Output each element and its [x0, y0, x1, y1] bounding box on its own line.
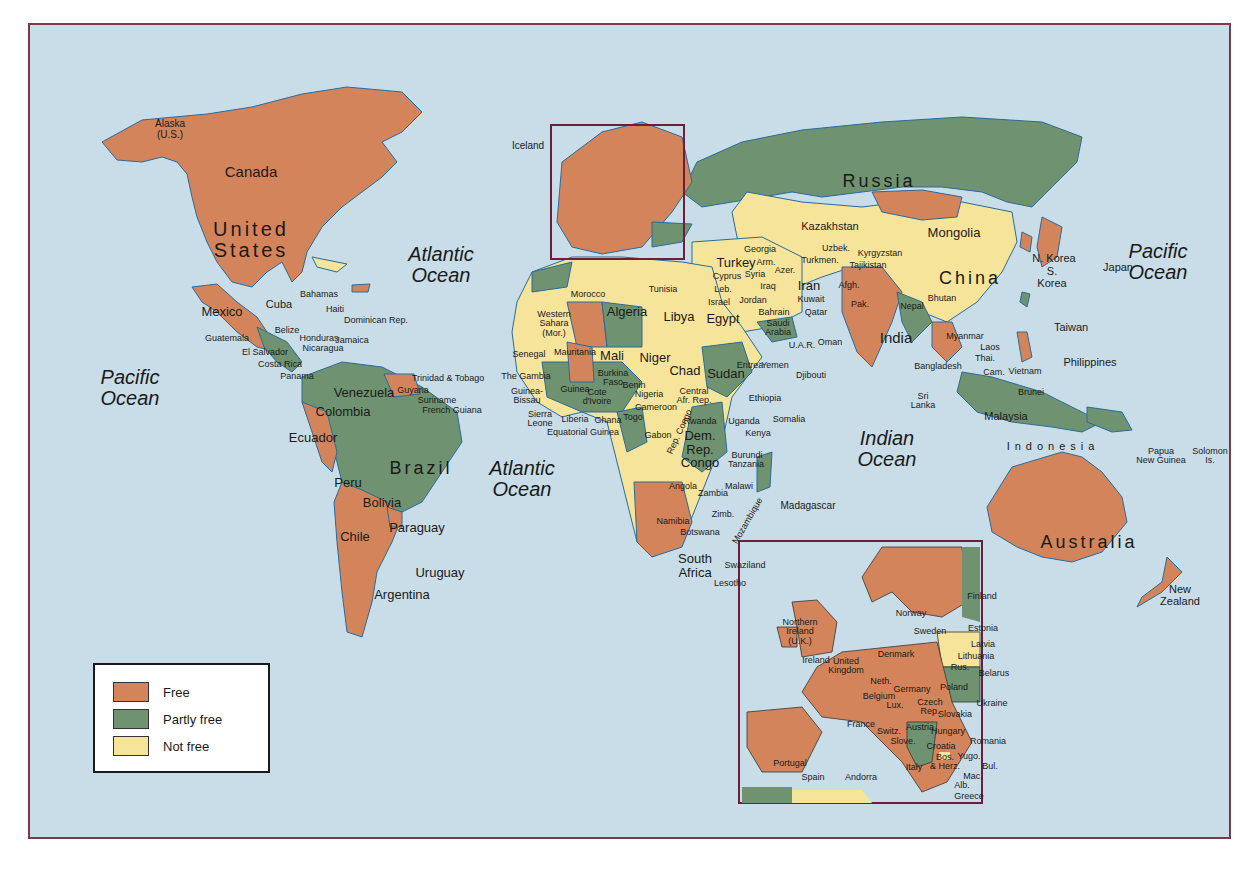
label-eritrea: Eritrea: [737, 361, 764, 370]
legend-label-free: Free: [163, 685, 190, 700]
ocean-label-indian: IndianOcean: [858, 428, 917, 470]
label-swaziland: Swaziland: [724, 561, 765, 570]
label-kenya: Kenya: [745, 429, 771, 438]
label-cote-divoire: Coted'Ivoire: [583, 388, 612, 407]
label-n-korea: N. Korea: [1032, 253, 1075, 265]
label-ethiopia: Ethiopia: [749, 394, 782, 403]
label-papua-new-guinea: PapuaNew Guinea: [1136, 447, 1186, 466]
label-djibouti: Djibouti: [796, 371, 826, 380]
label-indonesia: Indonesia: [1007, 441, 1100, 453]
ocean-label-atlantic-south: AtlanticOcean: [489, 458, 555, 500]
label-haiti: Haiti: [326, 305, 344, 314]
inset-label-northern-ireland: NorthernIreland(U.K.): [782, 618, 817, 646]
inset-label-rus: Rus.: [951, 663, 970, 672]
map-legend: Free Partly free Not free: [93, 663, 270, 773]
label-tajikistan: Tajikistan: [849, 261, 886, 270]
inset-label-bos-herz: Bos.& Herz.: [930, 753, 960, 772]
label-cuba: Cuba: [266, 299, 292, 311]
label-yemen: Yemen: [761, 361, 789, 370]
ocean-label-pacific-west: PacificOcean: [101, 367, 160, 409]
legend-item-free: Free: [113, 681, 190, 703]
label-australia: Australia: [1040, 533, 1137, 552]
label-costa-rica: Costa Rica: [258, 360, 302, 369]
inset-label-germany: Germany: [893, 685, 930, 694]
label-iceland: Iceland: [512, 141, 544, 152]
label-panama: Panama: [280, 372, 314, 381]
label-russia: Russia: [842, 172, 915, 191]
inset-label-ireland: Ireland: [802, 656, 830, 665]
label-bangladesh: Bangladesh: [914, 362, 962, 371]
label-ecuador: Ecuador: [289, 431, 337, 445]
inset-label-norway: Norway: [896, 609, 927, 618]
label-iran: Iran: [798, 279, 820, 293]
label-liberia: Liberia: [561, 415, 588, 424]
label-chad: Chad: [669, 364, 700, 378]
label-equatorial-guinea: Equatorial Guinea: [547, 428, 619, 437]
legend-item-not-free: Not free: [113, 735, 209, 757]
label-japan: Japan: [1103, 262, 1133, 274]
label-lesotho: Lesotho: [714, 579, 746, 588]
inset-label-greece: Greece: [954, 792, 984, 801]
label-uzbek: Uzbek.: [822, 244, 850, 253]
label-nigeria: Nigeria: [635, 390, 664, 399]
inset-label-romania: Romania: [970, 737, 1006, 746]
label-india: India: [880, 330, 913, 346]
inset-label-andorra: Andorra: [845, 773, 877, 782]
inset-label-poland: Poland: [940, 683, 968, 692]
legend-item-partly-free: Partly free: [113, 708, 222, 730]
label-zambia: Zambia: [698, 489, 728, 498]
inset-label-ukraine: Ukraine: [976, 699, 1007, 708]
label-rwanda: Rwanda: [683, 417, 716, 426]
label-cameroon: Cameroon: [635, 403, 677, 412]
label-peru: Peru: [334, 476, 361, 490]
label-philippines: Philippines: [1063, 357, 1116, 369]
label-nicaragua: Nicaragua: [302, 344, 343, 353]
label-myanmar: Myanmar: [946, 332, 984, 341]
label-georgia: Georgia: [744, 245, 776, 254]
label-alaska: Alaska(U.S.): [155, 119, 185, 140]
label-uar: U.A.R.: [789, 341, 816, 350]
label-dominican-rep: Dominican Rep.: [344, 316, 408, 325]
label-egypt: Egypt: [706, 312, 739, 326]
label-colombia: Colombia: [316, 405, 371, 419]
inset-label-austria: Austria: [906, 723, 934, 732]
label-south-africa: SouthAfrica: [678, 552, 712, 579]
inset-label-estonia: Estonia: [968, 624, 998, 633]
label-brazil: Brazil: [389, 459, 452, 478]
label-malaysia: Malaysia: [984, 411, 1027, 423]
inset-label-croatia: Croatia: [926, 742, 955, 751]
label-gabon: Gabon: [644, 431, 671, 440]
label-thai: Thai.: [975, 354, 995, 363]
inset-label-italy: Italy: [906, 763, 923, 772]
label-sri-lanka: SriLanka: [911, 392, 936, 411]
label-vietnam: Vietnam: [1009, 367, 1042, 376]
inset-label-yugo: Yugo.: [957, 752, 980, 761]
label-syria: Syria: [745, 270, 766, 279]
label-pak: Pak.: [851, 300, 869, 309]
label-the-gambia: The Gambia: [501, 372, 551, 381]
ocean-label-pacific-east: PacificOcean: [1129, 241, 1188, 283]
label-afgh: Afgh.: [838, 281, 859, 290]
label-laos: Laos: [980, 343, 1000, 352]
inset-label-united-kingdom: UnitedKingdom: [828, 657, 864, 676]
label-senegal: Senegal: [512, 350, 545, 359]
inset-label-finland: Finland: [967, 592, 997, 601]
label-western-sahara: WesternSahara(Mor.): [537, 310, 570, 338]
label-turkey: Turkey: [716, 256, 755, 270]
inset-label-portugal: Portugal: [773, 759, 807, 768]
legend-swatch-not-free: [113, 736, 149, 756]
label-malawi: Malawi: [725, 482, 753, 491]
inset-label-spain: Spain: [801, 773, 824, 782]
label-el-salvador: El Salvador: [242, 348, 288, 357]
label-guinea-bissau: Guinea-Bissau: [511, 387, 543, 406]
label-mali: Mali: [600, 349, 624, 363]
label-saudi-arabia: SaudiArabia: [765, 319, 791, 338]
label-botswana: Botswana: [680, 528, 720, 537]
label-algeria: Algeria: [607, 305, 647, 319]
label-venezuela: Venezuela: [334, 386, 395, 400]
label-kuwait: Kuwait: [797, 295, 824, 304]
label-togo: Togo: [623, 413, 643, 422]
label-libya: Libya: [663, 310, 694, 324]
label-iraq: Iraq: [760, 282, 776, 291]
label-leb: Leb.: [714, 285, 732, 294]
